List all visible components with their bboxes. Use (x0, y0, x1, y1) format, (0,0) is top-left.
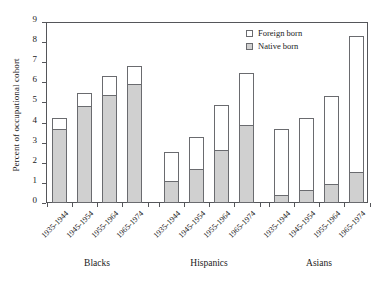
y-tick-mark (42, 203, 46, 204)
bar-segment-native-born (102, 95, 117, 203)
bar-blacks-1965-1974 (127, 66, 142, 203)
bar-segment-native-born (324, 184, 339, 203)
y-tick-label: 0 (17, 196, 37, 205)
y-tick-6: 6 (0, 82, 46, 83)
x-tick-mark (72, 203, 73, 207)
y-tick-8: 8 (0, 42, 46, 43)
bar-segment-foreign-born (77, 93, 92, 107)
x-tick-mark (260, 203, 261, 207)
bar-segment-native-born (189, 169, 204, 203)
x-tick-mark (344, 203, 345, 207)
bar-asians-1965-1974 (349, 36, 364, 203)
bar-segment-foreign-born (299, 118, 314, 191)
y-tick-label: 2 (17, 156, 37, 165)
bar-segment-native-born (274, 195, 289, 203)
bar-segment-native-born (239, 125, 254, 203)
y-tick-label: 1 (17, 176, 37, 185)
y-tick-label: 7 (17, 55, 37, 64)
bar-segment-native-born (299, 190, 314, 203)
bar-hispanics-1945-1954 (189, 137, 204, 203)
y-tick-1: 1 (0, 183, 46, 184)
legend-swatch-foreign-born-icon (246, 30, 253, 37)
group-label-blacks: Blacks (57, 258, 137, 268)
bar-segment-foreign-born (274, 129, 289, 196)
bar-blacks-1955-1964 (102, 76, 117, 203)
bar-segment-foreign-born (189, 137, 204, 170)
bar-segment-native-born (214, 150, 229, 203)
y-tick-label: 9 (17, 15, 37, 24)
stacked-bar-chart: Percent of occupational cohort 987654321… (0, 0, 387, 288)
x-tick-mark (97, 203, 98, 207)
bar-segment-foreign-born (102, 76, 117, 96)
bar-segment-foreign-born (349, 36, 364, 173)
x-tick-mark (184, 203, 185, 207)
x-tick-mark (234, 203, 235, 207)
legend-item-native-born: Native born (246, 40, 302, 52)
x-tick-mark (209, 203, 210, 207)
y-tick-label: 6 (17, 75, 37, 84)
x-tick-mark (269, 203, 270, 207)
y-tick-0: 0 (0, 203, 46, 204)
y-tick-4: 4 (0, 123, 46, 124)
bar-segment-native-born (164, 181, 179, 203)
x-tick-mark (159, 203, 160, 207)
y-tick-7: 7 (0, 62, 46, 63)
bar-segment-foreign-born (239, 73, 254, 125)
y-tick-label: 3 (17, 136, 37, 145)
x-tick-mark (148, 203, 149, 207)
bar-segment-native-born (77, 106, 92, 203)
x-tick-mark (122, 203, 123, 207)
bars-layer (46, 22, 368, 203)
y-tick-2: 2 (0, 163, 46, 164)
x-tick-mark (47, 203, 48, 207)
bar-segment-native-born (127, 84, 142, 203)
y-tick-label: 5 (17, 95, 37, 104)
bar-segment-foreign-born (214, 105, 229, 150)
bar-segment-native-born (349, 172, 364, 203)
legend-item-foreign-born: Foreign born (246, 27, 302, 39)
bar-hispanics-1935-1944 (164, 152, 179, 203)
x-tick-mark (294, 203, 295, 207)
y-tick-3: 3 (0, 143, 46, 144)
x-tick-mark (319, 203, 320, 207)
y-tick-label: 8 (17, 35, 37, 44)
chart-legend: Foreign born Native born (246, 27, 302, 53)
y-tick-5: 5 (0, 102, 46, 103)
bar-blacks-1945-1954 (77, 93, 92, 203)
x-tick-mark (370, 203, 371, 207)
legend-swatch-native-born-icon (246, 43, 253, 50)
bar-segment-native-born (52, 129, 67, 203)
legend-label-foreign-born: Foreign born (258, 27, 302, 39)
bar-hispanics-1955-1964 (214, 105, 229, 203)
bar-blacks-1935-1944 (52, 118, 67, 203)
legend-label-native-born: Native born (258, 40, 298, 52)
bar-asians-1945-1954 (299, 118, 314, 203)
group-label-hispanics: Hispanics (169, 258, 249, 268)
y-tick-label: 4 (17, 116, 37, 125)
bar-segment-foreign-born (164, 152, 179, 182)
bar-asians-1935-1944 (274, 129, 289, 203)
y-tick-9: 9 (0, 22, 46, 23)
bar-hispanics-1965-1974 (239, 73, 254, 203)
bar-asians-1955-1964 (324, 96, 339, 203)
group-label-asians: Asians (279, 258, 359, 268)
bar-segment-foreign-born (324, 96, 339, 184)
bar-segment-foreign-born (127, 66, 142, 85)
